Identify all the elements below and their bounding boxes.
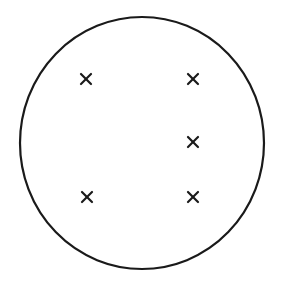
cross-marks-group [81,74,198,202]
circle-outline [20,17,264,269]
cross-mark-icon [82,192,92,202]
cross-mark-icon [81,74,91,84]
diagram-canvas [0,0,282,297]
cross-mark-icon [188,137,198,147]
cross-mark-icon [188,74,198,84]
cross-mark-icon [188,192,198,202]
